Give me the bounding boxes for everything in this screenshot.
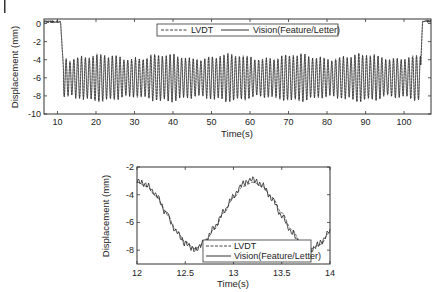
top-y-tick-label: -2 [33, 37, 41, 47]
top-y-tick-label: -4 [33, 55, 41, 65]
bottom-chart: 1212.51313.514-2-4-6-8 Displacement (mm)… [100, 162, 335, 289]
bottom-legend: LVDT Vision(Feature/Letter) [203, 240, 321, 262]
top-x-tick-label: 60 [245, 117, 255, 127]
bottom-x-tick-label: 12 [132, 268, 142, 278]
top-x-tick-label: 50 [206, 117, 216, 127]
top-x-tick-label: 30 [129, 117, 139, 127]
top-y-tick-label: -10 [28, 109, 41, 119]
top-x-tick-label: 80 [322, 117, 332, 127]
lvdt-series [137, 182, 330, 249]
top-y-tick-label: -6 [33, 73, 41, 83]
bottom-y-tick-label: -6 [126, 217, 134, 227]
bottom-x-axis-label: Time(s) [217, 278, 249, 289]
top-chart: 1020304050607080901000-2-4-6-8-10 Displa… [9, 19, 431, 139]
bottom-x-tick-label: 12.5 [176, 268, 194, 278]
bottom-legend-lvdt: LVDT [234, 241, 257, 251]
bottom-x-tick-label: 13 [228, 268, 238, 278]
bottom-x-tick-label: 13.5 [273, 268, 291, 278]
top-legend-vision: Vision(Feature/Letter) [253, 25, 340, 35]
top-y-axis-label: Displacement (mm) [9, 26, 20, 108]
top-x-tick-label: 90 [361, 117, 371, 127]
top-x-tick-label: 40 [168, 117, 178, 127]
top-x-tick-label: 100 [397, 117, 412, 127]
margin-mark [4, 0, 6, 13]
top-x-tick-label: 70 [284, 117, 294, 127]
figure: 1020304050607080901000-2-4-6-8-10 Displa… [0, 0, 439, 292]
bottom-legend-vision: Vision(Feature/Letter) [234, 251, 321, 261]
top-x-axis-label: Time(s) [221, 128, 253, 139]
top-legend-lvdt: LVDT [191, 25, 214, 35]
bottom-y-tick-label: -8 [126, 245, 134, 255]
bottom-y-axis-label: Displacement (mm) [100, 175, 111, 257]
top-y-tick-label: 0 [36, 19, 41, 29]
top-y-tick-label: -8 [33, 91, 41, 101]
top-x-tick-label: 20 [91, 117, 101, 127]
bottom-y-tick-label: -4 [126, 190, 134, 200]
top-x-tick-label: 10 [52, 117, 62, 127]
bottom-x-tick-label: 14 [325, 268, 335, 278]
top-legend: LVDT Vision(Feature/Letter) [157, 24, 340, 36]
bottom-y-tick-label: -2 [126, 162, 134, 172]
